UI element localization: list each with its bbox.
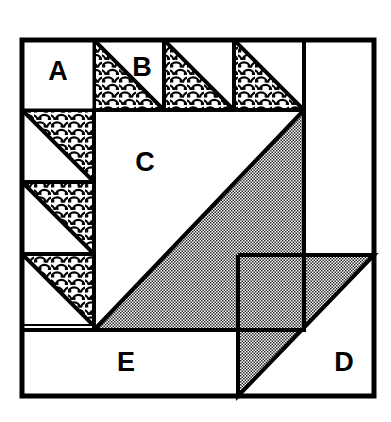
patch-b-unit-3[interactable] <box>234 40 304 110</box>
label-a: A <box>48 56 68 86</box>
patch-b-unit-1[interactable] <box>94 40 164 110</box>
patch-b-unit-2[interactable] <box>164 40 234 110</box>
left-triangle-column <box>22 110 94 326</box>
top-triangle-row <box>94 40 304 110</box>
patch-c-square[interactable] <box>94 110 304 330</box>
patch-left-unit-2[interactable] <box>22 182 94 254</box>
label-e: E <box>117 347 135 377</box>
label-b: B <box>132 52 152 82</box>
patch-left-unit-3[interactable] <box>22 254 94 326</box>
label-c: C <box>135 147 155 177</box>
quilt-block-diagram: A B C D E <box>0 0 391 422</box>
label-d: D <box>334 347 354 377</box>
patch-left-unit-1[interactable] <box>22 110 94 182</box>
